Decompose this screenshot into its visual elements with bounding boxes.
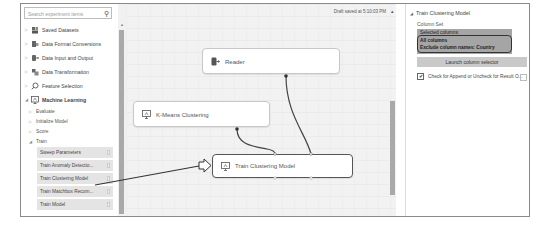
properties-title-text: Train Clustering Model (416, 10, 470, 16)
highlight-outline (417, 35, 512, 53)
studio-window: Search experiment items ⚲ ▷ Saved Datase… (20, 3, 530, 217)
help-icon[interactable] (520, 74, 527, 81)
collapse-caret-icon[interactable]: ◢ (410, 11, 413, 16)
append-checkbox[interactable]: ✔ (417, 73, 424, 80)
input-port-1[interactable] (274, 153, 277, 156)
panel-divider (405, 4, 406, 216)
output-port-1[interactable] (274, 177, 277, 180)
properties-panel: ◢Train Clustering Model Column Set Selec… (405, 4, 530, 216)
input-port-2[interactable] (310, 153, 313, 156)
drag-arrow-icon (199, 159, 211, 172)
wire-kmeans-to-train[interactable] (237, 129, 275, 154)
launch-column-selector-button[interactable]: Launch column selector (417, 57, 527, 67)
wire-reader-to-train[interactable] (286, 76, 311, 154)
output-port-kmeans[interactable] (235, 127, 239, 131)
output-port-2[interactable] (310, 177, 313, 180)
drag-callout-line (95, 166, 199, 185)
checkbox-label: Check for Append or Uncheck for Result O… (428, 74, 523, 79)
properties-title[interactable]: ◢Train Clustering Model (410, 10, 470, 16)
column-set-label: Column Set (417, 21, 443, 27)
output-port-reader[interactable] (284, 74, 288, 78)
append-checkbox-row[interactable]: ✔Check for Append or Uncheck for Result … (417, 72, 529, 82)
